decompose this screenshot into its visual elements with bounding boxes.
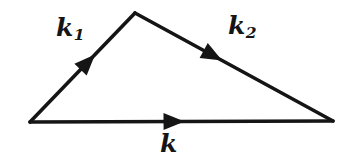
vector-k2-arrowhead: [200, 43, 223, 61]
label-k2: k2: [228, 13, 256, 41]
label-k: k: [160, 131, 178, 159]
label-k1: k1: [56, 15, 84, 43]
vector-k-arrowhead: [164, 113, 185, 130]
label-k2-base: k: [228, 11, 245, 40]
label-k1-base: k: [56, 13, 73, 42]
label-k1-sub: 1: [74, 25, 85, 44]
label-k-base: k: [160, 129, 177, 158]
label-k2-sub: 2: [246, 23, 257, 42]
diagram-canvas: k1 k2 k: [0, 0, 355, 165]
